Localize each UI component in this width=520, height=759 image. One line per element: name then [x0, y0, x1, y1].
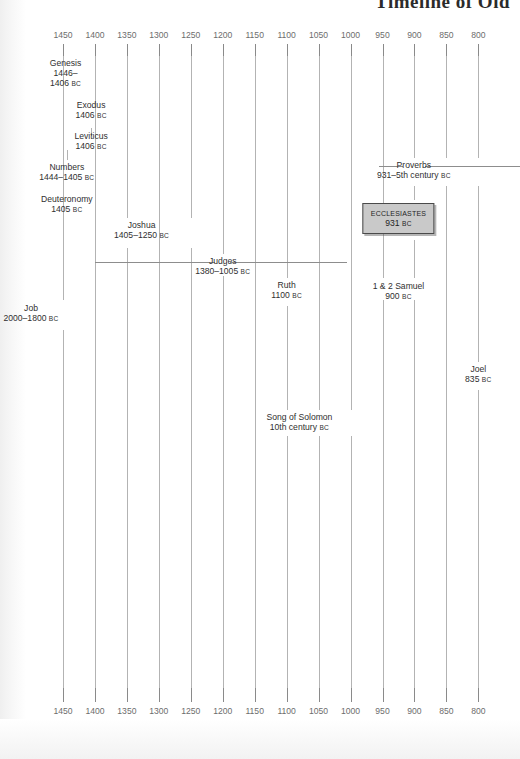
grid-line-1450 [63, 330, 64, 688]
axis-tick-mark-bottom-1300 [159, 688, 160, 702]
event-date-samuel: 900 BC [373, 291, 425, 301]
grid-connector-4 [191, 248, 192, 256]
axis-tick-mark-top-950 [383, 44, 384, 56]
grid-connector-2 [67, 150, 68, 160]
event-date-exodus: 1406 BC [75, 110, 106, 120]
event-date-line1-genesis: 1446– [50, 68, 82, 78]
era-suffix: BC [482, 376, 492, 383]
event-name-genesis: Genesis [50, 58, 82, 68]
event-name-exodus: Exodus [75, 100, 106, 110]
axis-tick-mark-top-1050 [319, 44, 320, 56]
era-suffix: BC [97, 143, 107, 150]
grid-line-1050 [319, 436, 320, 688]
event-label-samuel: 1 & 2 Samuel900 BC [373, 281, 425, 301]
axis-tick-mark-bottom-800 [478, 688, 479, 702]
event-date-ecclesiastes: 931 BC [371, 218, 426, 228]
grid-line-1300 [159, 56, 160, 688]
chart-title: Timeline of Old [375, 0, 510, 13]
axis-tick-mark-bottom-1250 [191, 688, 192, 702]
event-name-joshua: Joshua [114, 220, 169, 230]
event-name-ruth: Ruth [271, 280, 302, 290]
grid-line-850 [446, 56, 447, 158]
event-label-songofsolomon: Song of Solomon10th century BC [266, 412, 332, 432]
axis-tick-mark-bottom-1350 [127, 688, 128, 702]
grid-line-1250 [191, 248, 192, 688]
event-name-ecclesiastes: Ecclesiastes [371, 207, 426, 218]
axis-tick-label-bottom-950: 950 [375, 706, 389, 716]
grid-line-1350 [127, 248, 128, 688]
era-suffix: BC [71, 80, 81, 87]
axis-tick-label-bottom-1350: 1350 [117, 706, 136, 716]
axis-tick-label-top-900: 900 [407, 30, 421, 40]
axis-tick-mark-top-800 [478, 44, 479, 56]
axis-tick-label-top-1350: 1350 [117, 30, 136, 40]
grid-line-1100 [287, 306, 288, 410]
axis-tick-label-top-1100: 1100 [277, 30, 295, 40]
event-date-job: 2000–1800 BC [3, 313, 58, 323]
axis-tick-mark-top-1400 [95, 44, 96, 56]
axis-tick-label-top-1300: 1300 [149, 30, 168, 40]
axis-tick-mark-top-1000 [351, 44, 352, 56]
event-label-proverbs: Proverbs931–5th century BC [377, 160, 451, 180]
old-testament-timeline-chart: Timeline of Old 145014501400140013501350… [0, 0, 520, 759]
grid-line-800 [478, 56, 479, 158]
axis-tick-mark-top-1150 [255, 44, 256, 56]
axis-tick-label-bottom-1250: 1250 [181, 706, 200, 716]
era-suffix: BC [49, 315, 59, 322]
axis-tick-label-top-1150: 1150 [245, 30, 263, 40]
axis-tick-label-bottom-1100: 1100 [277, 706, 295, 716]
event-name-joel: Joel [465, 364, 492, 374]
axis-tick-mark-bottom-900 [414, 688, 415, 702]
grid-line-800 [478, 186, 479, 362]
grid-line-900 [414, 186, 415, 200]
event-name-numbers: Numbers [39, 162, 94, 172]
event-name-songofsolomon: Song of Solomon [266, 412, 332, 422]
axis-tick-mark-bottom-1400 [95, 688, 96, 702]
event-date-ruth: 1100 BC [271, 290, 302, 300]
event-date-joshua: 1405–1250 BC [114, 230, 169, 240]
axis-tick-mark-top-1250 [191, 44, 192, 56]
axis-tick-mark-top-1200 [223, 44, 224, 56]
era-suffix: BC [402, 293, 412, 300]
era-suffix: BC [85, 174, 95, 181]
grid-line-1100 [287, 56, 288, 278]
axis-tick-mark-top-1350 [127, 44, 128, 56]
axis-tick-label-top-1400: 1400 [85, 30, 104, 40]
event-name-job: Job [3, 303, 58, 313]
event-date-songofsolomon: 10th century BC [266, 422, 332, 432]
axis-tick-label-top-800: 800 [471, 30, 485, 40]
grid-line-1350 [127, 56, 128, 218]
grid-line-1100 [287, 436, 288, 688]
grid-line-900 [414, 300, 415, 688]
axis-tick-label-top-1450: 1450 [53, 30, 72, 40]
axis-tick-mark-bottom-1000 [351, 688, 352, 702]
event-label-ruth: Ruth1100 BC [271, 280, 302, 300]
axis-tick-label-top-1200: 1200 [213, 30, 232, 40]
event-label-judges: Judges1380–1005 BC [195, 256, 250, 276]
axis-tick-label-bottom-1400: 1400 [85, 706, 104, 716]
era-suffix: BC [73, 206, 83, 213]
grid-line-800 [478, 390, 479, 688]
axis-tick-label-bottom-900: 900 [407, 706, 421, 716]
axis-tick-label-bottom-1050: 1050 [309, 706, 328, 716]
event-label-job: Job2000–1800 BC [3, 303, 58, 323]
axis-tick-label-bottom-850: 850 [439, 706, 453, 716]
era-suffix: BC [441, 172, 451, 179]
event-date-deuteronomy: 1405 BC [41, 204, 93, 214]
axis-tick-mark-top-1100 [287, 44, 288, 56]
axis-tick-mark-bottom-1150 [255, 688, 256, 702]
highlighted-event-ecclesiastes[interactable]: Ecclesiastes931 BC [363, 203, 434, 234]
event-label-leviticus: Leviticus1406 BC [74, 131, 107, 151]
event-date-line2-genesis: 1406 BC [50, 78, 82, 88]
axis-tick-mark-bottom-1050 [319, 688, 320, 702]
axis-tick-mark-top-900 [414, 44, 415, 56]
era-suffix: BC [97, 112, 107, 119]
event-label-genesis: Genesis1446–1406 BC [50, 58, 82, 88]
grid-line-900 [414, 56, 415, 158]
grid-line-1200 [223, 56, 224, 254]
era-suffix: BC [159, 232, 169, 239]
event-label-joshua: Joshua1405–1250 BC [114, 220, 169, 240]
axis-tick-mark-bottom-1200 [223, 688, 224, 702]
era-suffix: BC [292, 292, 302, 299]
axis-tick-label-bottom-1300: 1300 [149, 706, 168, 716]
